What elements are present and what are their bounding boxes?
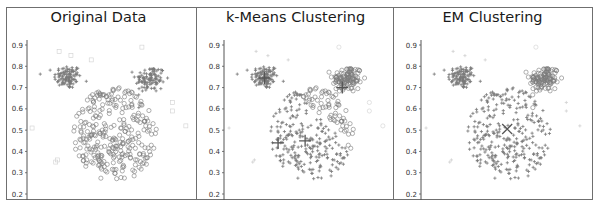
- y-tick-label: 0.3: [209, 169, 220, 177]
- y-tick-label: 0.4: [406, 148, 418, 156]
- y-tick-label: 0.2: [209, 191, 220, 199]
- y-tick-label: 0.5: [406, 127, 417, 135]
- y-tick-label: 0.2: [406, 191, 417, 199]
- scatter-plot-original: 0.20.30.40.50.60.70.80.9: [0, 0, 197, 207]
- y-tick-label: 0.3: [12, 169, 23, 177]
- y-tick-label: 0.6: [12, 105, 24, 113]
- y-tick-label: 0.6: [406, 105, 418, 113]
- y-tick-label: 0.9: [406, 42, 417, 50]
- y-tick-label: 0.8: [12, 63, 23, 71]
- panel-kmeans: k-Means Clustering 0.20.30.40.50.60.70.8…: [197, 0, 394, 207]
- scatter-plot-kmeans: 0.20.30.40.50.60.70.80.9: [197, 0, 394, 207]
- y-tick-label: 0.7: [209, 84, 220, 92]
- y-tick-label: 0.3: [406, 169, 417, 177]
- y-tick-label: 0.7: [406, 84, 417, 92]
- panel-original-data: Original Data 0.20.30.40.50.60.70.80.9: [0, 0, 197, 207]
- y-tick-label: 0.4: [12, 148, 24, 156]
- y-tick-label: 0.9: [12, 42, 23, 50]
- y-tick-label: 0.4: [209, 148, 221, 156]
- y-tick-label: 0.5: [12, 127, 23, 135]
- y-tick-label: 0.7: [12, 84, 23, 92]
- panel-em: EM Clustering 0.20.30.40.50.60.70.80.9: [394, 0, 594, 207]
- scatter-plot-em: 0.20.30.40.50.60.70.80.9: [394, 0, 594, 207]
- y-tick-label: 0.8: [209, 63, 220, 71]
- y-tick-label: 0.6: [209, 105, 221, 113]
- y-tick-label: 0.2: [12, 191, 23, 199]
- y-tick-label: 0.9: [209, 42, 220, 50]
- y-tick-label: 0.5: [209, 127, 220, 135]
- y-tick-label: 0.8: [406, 63, 417, 71]
